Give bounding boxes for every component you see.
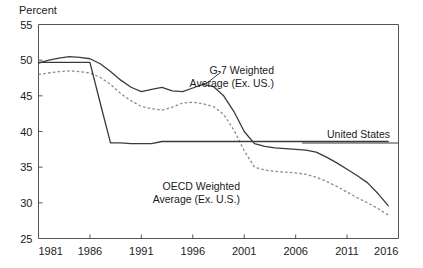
y-tick-label: 45 [20,90,32,102]
annotation-us-label: United States [327,128,390,140]
x-tick-label: 2011 [335,245,359,257]
annotation-line: OECD Weighted [163,180,241,192]
x-tick-label: 1986 [78,245,102,257]
annotation-oecd-label: OECD WeightedAverage (Ex. U.S.) [153,180,240,205]
y-tick-label: 25 [20,233,32,245]
x-tick-label: 2016 [374,245,398,257]
y-tick-label: 55 [20,19,32,31]
x-tick-label: 2006 [283,245,307,257]
annotation-line: G-7 Weighted [209,64,274,76]
x-tick-label: 1991 [129,245,153,257]
annotation-line: United States [327,128,390,140]
line-chart: Percent 25303540455055 19811986199119962… [0,0,423,268]
x-tick-label: 1981 [39,245,63,257]
annotation-g7-label: G-7 WeightedAverage (Ex. US.) [190,64,275,89]
annotation-line: Average (Ex. US.) [190,77,274,89]
y-tick-label: 35 [20,161,32,173]
x-tick-label: 2001 [232,245,256,257]
chart-container: Percent 25303540455055 19811986199119962… [0,0,423,268]
x-tick-label: 1996 [181,245,205,257]
chart-annotations: G-7 WeightedAverage (Ex. US.)OECD Weight… [153,64,390,205]
y-tick-label: 40 [20,126,32,138]
x-axis-ticks: 19811986199119962001200620112016 [39,235,399,257]
y-tick-label: 30 [20,197,32,209]
y-axis-ticks: 25303540455055 [20,19,42,245]
y-tick-label: 50 [20,54,32,66]
y-axis-title: Percent [19,4,57,16]
annotation-line: Average (Ex. U.S.) [153,193,240,205]
